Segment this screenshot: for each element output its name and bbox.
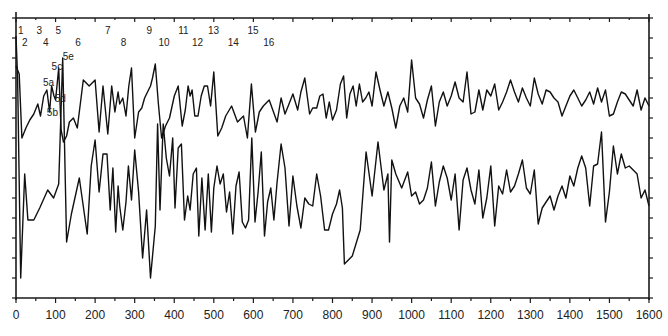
annotation-label: 5b [47, 107, 59, 118]
annotation-label: 6 [75, 37, 81, 48]
x-tick-label: 200 [85, 308, 105, 322]
annotation-label: 5e [63, 51, 75, 62]
x-tick-label: 800 [322, 308, 342, 322]
y-axis-ticks [12, 18, 653, 298]
x-tick-label: 1400 [557, 308, 584, 322]
annotation-label: 13 [208, 25, 220, 36]
line-chart: 0100200300400500600700800900100011001200… [0, 0, 668, 336]
x-tick-label: 1100 [438, 308, 464, 322]
x-tick-label: 1200 [477, 308, 504, 322]
annotation-label: 1 [18, 25, 24, 36]
annotation-label: 14 [228, 37, 240, 48]
annotation-label: 5 [56, 25, 62, 36]
annotation-label: 5c [52, 61, 63, 72]
annotation-label: 11 [178, 25, 189, 36]
annotation-label: 10 [158, 37, 170, 48]
annotation-label: 5d [55, 93, 66, 104]
x-tick-label: 500 [204, 308, 224, 322]
x-tick-label: 1500 [596, 308, 623, 322]
series-lower-line [16, 36, 649, 278]
x-tick-label: 100 [46, 308, 66, 322]
annotation-label: 7 [105, 25, 111, 36]
x-tick-label: 1000 [398, 308, 425, 322]
annotation-label: 4 [43, 37, 49, 48]
x-tick-label: 0 [13, 308, 20, 322]
x-tick-label: 400 [164, 308, 184, 322]
annotation-label: 16 [263, 37, 275, 48]
annotation-label: 9 [147, 25, 153, 36]
annotation-label: 15 [247, 25, 259, 36]
x-tick-label: 1600 [636, 308, 663, 322]
x-axis-ticks [16, 18, 649, 303]
annotation-label: 5a [43, 77, 55, 88]
annotation-label: 3 [37, 25, 43, 36]
x-tick-label: 300 [125, 308, 145, 322]
x-tick-label: 600 [243, 308, 263, 322]
annotation-label: 12 [192, 37, 204, 48]
annotation-label: 2 [22, 37, 28, 48]
annotation-label: 8 [121, 37, 127, 48]
x-tick-label: 1300 [517, 308, 544, 322]
x-axis-tick-labels: 0100200300400500600700800900100011001200… [13, 308, 663, 322]
peak-annotations: 123455a5b5c5d5e678910111213141516 [18, 25, 275, 118]
x-tick-label: 900 [362, 308, 382, 322]
x-tick-label: 700 [283, 308, 303, 322]
chart-frame [16, 12, 649, 300]
series-upper-line [16, 60, 649, 142]
